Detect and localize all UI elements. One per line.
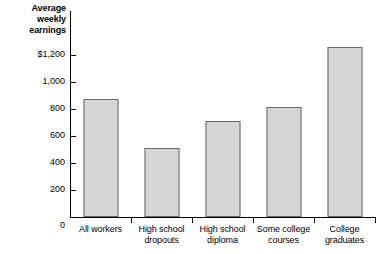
- plot-area: [70, 38, 375, 217]
- bar-high-school-dropouts: [144, 148, 179, 217]
- x-axis-divider: [314, 217, 315, 223]
- bar-college-graduates: [327, 47, 362, 217]
- y-axis-title-line-1: Average: [0, 3, 66, 14]
- bar-slot-some-college-courses: [253, 38, 314, 217]
- y-tick-label: 800: [0, 103, 65, 114]
- x-label-high-school-dropouts: High school dropouts: [131, 224, 192, 246]
- bar-slot-high-school-diploma: [192, 38, 253, 217]
- bar-some-college-courses: [266, 107, 301, 217]
- bar-slot-all-workers: [70, 38, 131, 217]
- y-axis-title-line-2: weekly: [0, 14, 66, 25]
- y-axis-title-line-3: earnings: [0, 25, 66, 36]
- x-label-line: diploma: [192, 235, 253, 246]
- y-tick-label-zero: 0: [0, 220, 65, 231]
- x-label-high-school-diploma: High school diploma: [192, 224, 253, 246]
- x-label-some-college-courses: Some college courses: [251, 224, 316, 246]
- x-axis-line: [70, 217, 375, 218]
- y-tick-800: 800: [0, 109, 76, 110]
- bar-slot-high-school-dropouts: [131, 38, 192, 217]
- bar-chart: Average weekly earnings $1,200 1,000 800…: [0, 0, 384, 254]
- x-axis-divider: [375, 217, 376, 223]
- y-axis-title: Average weekly earnings: [0, 3, 66, 36]
- bar-high-school-diploma: [205, 121, 240, 217]
- x-label-all-workers: All workers: [70, 224, 131, 235]
- x-axis-divider: [253, 217, 254, 223]
- bar-all-workers: [83, 99, 118, 217]
- y-tick-1000: 1,000: [0, 82, 76, 83]
- x-label-line: graduates: [314, 235, 375, 246]
- x-axis-divider: [192, 217, 193, 223]
- x-label-line: High school: [131, 224, 192, 235]
- x-label-college-graduates: College graduates: [314, 224, 375, 246]
- x-axis-divider: [131, 217, 132, 223]
- bar-slot-college-graduates: [314, 38, 375, 217]
- y-tick-label: $1,200: [0, 49, 65, 60]
- y-tick-1200: $1,200: [0, 55, 76, 56]
- y-tick-label: 200: [0, 184, 65, 195]
- x-label-line: courses: [251, 235, 316, 246]
- x-label-line: High school: [192, 224, 253, 235]
- y-tick-label: 600: [0, 130, 65, 141]
- y-tick-label: 1,000: [0, 76, 65, 87]
- x-label-line: College: [314, 224, 375, 235]
- y-tick-400: 400: [0, 163, 76, 164]
- y-tick-label: 400: [0, 157, 65, 168]
- x-label-line: All workers: [70, 224, 131, 235]
- y-tick-200: 200: [0, 190, 76, 191]
- y-tick-600: 600: [0, 136, 76, 137]
- x-label-line: Some college: [251, 224, 316, 235]
- x-label-line: dropouts: [131, 235, 192, 246]
